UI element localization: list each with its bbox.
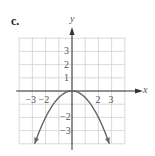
y-tick-label: 1 bbox=[64, 73, 69, 83]
y-tick-label: 2 bbox=[64, 60, 69, 70]
x-tick-label: −3 bbox=[25, 95, 36, 105]
y-axis-label: y bbox=[70, 14, 74, 24]
y-axis-arrow-icon bbox=[70, 27, 75, 35]
parabola-chart bbox=[0, 0, 155, 156]
y-tick-label: −2 bbox=[60, 112, 71, 122]
x-tick-label: −2 bbox=[39, 95, 50, 105]
x-axis-label: x bbox=[143, 85, 147, 95]
y-tick-label: 3 bbox=[64, 46, 69, 56]
x-tick-label: 3 bbox=[109, 95, 114, 105]
x-axis-arrow-icon bbox=[135, 89, 143, 94]
x-tick-label: 2 bbox=[95, 95, 100, 105]
y-tick-label: −3 bbox=[60, 126, 71, 136]
curve-arrow-icon bbox=[34, 137, 39, 143]
curve-arrow-icon bbox=[105, 137, 110, 143]
